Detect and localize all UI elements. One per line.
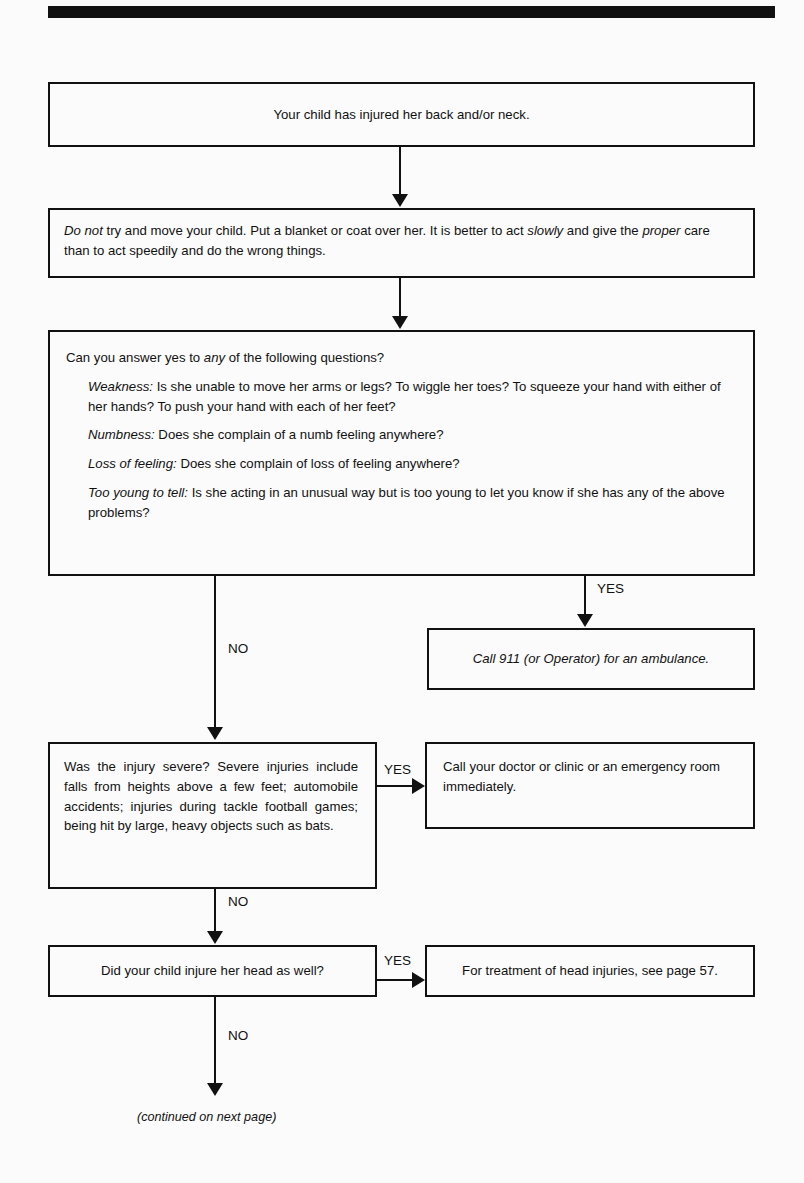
box-head-treatment: For treatment of head injuries, see page…: [425, 945, 755, 997]
question-item-body: Does she complain of loss of feeling any…: [177, 456, 460, 471]
connector-questions-yes: [584, 576, 586, 615]
box-do-not-move: Do not try and move your child. Put a bl…: [48, 208, 755, 278]
arrow-questions-yes: [577, 614, 593, 627]
box-call-clinic-text: Call your doctor or clinic or an emergen…: [427, 744, 753, 797]
connector-severe-no: [214, 889, 216, 932]
connector-head-yes: [377, 979, 413, 981]
box-questions-content: Can you answer yes to any of the followi…: [50, 332, 753, 523]
question-item-body: Does she complain of a numb feeling anyw…: [155, 427, 444, 442]
connector-severe-yes: [377, 785, 413, 787]
question-item-body: Is she unable to move her arms or legs? …: [88, 379, 721, 414]
box-head-question: Did your child injure her head as well?: [48, 945, 377, 997]
edge-label-questions-yes: YES: [597, 581, 624, 596]
box-do-not-move-text: Do not try and move your child. Put a bl…: [50, 210, 753, 261]
arrow-severe-yes: [412, 778, 425, 794]
question-item: Loss of feeling: Does she complain of lo…: [88, 454, 737, 474]
box-intro-text: Your child has injured her back and/or n…: [50, 84, 753, 145]
question-item-label: Too young to tell:: [88, 485, 188, 500]
page-top-rule: [48, 6, 775, 18]
question-item: Weakness: Is she unable to move her arms…: [88, 377, 737, 417]
questions-item-list: Weakness: Is she unable to move her arms…: [66, 377, 737, 523]
plain-text: Can you answer yes to: [66, 350, 204, 365]
question-item-label: Numbness:: [88, 427, 155, 442]
arrow-questions-no: [207, 727, 223, 740]
emphasized-text: slowly: [527, 223, 563, 238]
box-questions: Can you answer yes to any of the followi…: [48, 330, 755, 576]
arrow-intro-to-donotmove: [392, 194, 408, 207]
emphasized-text: any: [204, 350, 225, 365]
box-call-ambulance: Call 911 (or Operator) for an ambulance.: [427, 628, 755, 690]
question-item-label: Weakness:: [88, 379, 153, 394]
emphasized-text: proper: [642, 223, 680, 238]
edge-label-head-yes: YES: [384, 953, 411, 968]
emphasized-text: Do not: [64, 223, 103, 238]
arrow-head-no: [207, 1083, 223, 1096]
edge-label-head-no: NO: [228, 1028, 248, 1043]
connector-questions-no: [214, 576, 216, 728]
box-call-ambulance-text: Call 911 (or Operator) for an ambulance.: [429, 630, 753, 688]
question-item: Numbness: Does she complain of a numb fe…: [88, 425, 737, 445]
plain-text: try and move your child. Put a blanket o…: [103, 223, 527, 238]
plain-text: of the following questions?: [225, 350, 384, 365]
edge-label-severe-yes: YES: [384, 762, 411, 777]
box-head-treatment-text: For treatment of head injuries, see page…: [427, 947, 753, 995]
connector-intro-to-donotmove: [399, 147, 401, 195]
edge-label-severe-no: NO: [228, 894, 248, 909]
box-head-question-text: Did your child injure her head as well?: [50, 947, 375, 995]
box-severe-question-text: Was the injury severe? Severe injuries i…: [50, 744, 375, 836]
connector-head-no: [214, 997, 216, 1084]
question-item-label: Loss of feeling:: [88, 456, 177, 471]
questions-intro-line: Can you answer yes to any of the followi…: [66, 348, 737, 368]
continued-note: (continued on next page): [137, 1110, 276, 1124]
arrow-head-yes: [412, 972, 425, 988]
box-intro: Your child has injured her back and/or n…: [48, 82, 755, 147]
box-call-clinic: Call your doctor or clinic or an emergen…: [425, 742, 755, 829]
question-item: Too young to tell: Is she acting in an u…: [88, 483, 737, 523]
arrow-donotmove-to-questions: [392, 316, 408, 329]
plain-text: and give the: [563, 223, 642, 238]
box-severe-question: Was the injury severe? Severe injuries i…: [48, 742, 377, 889]
connector-donotmove-to-questions: [399, 278, 401, 317]
edge-label-questions-no: NO: [228, 641, 248, 656]
arrow-severe-no: [207, 931, 223, 944]
flowchart-page: Your child has injured her back and/or n…: [0, 0, 804, 1183]
